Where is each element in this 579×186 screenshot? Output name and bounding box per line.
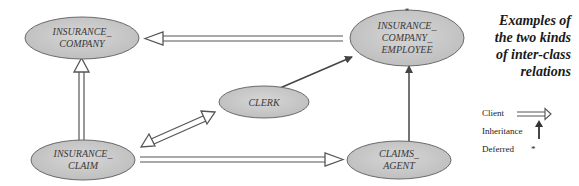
class-insurance-company-employee[interactable]: * INSURANCE_ COMPANY_ EMPLOYEE (350, 6, 464, 66)
class-label: CLAIMS_ (379, 148, 420, 159)
legend-deferred-symbol: * (531, 144, 536, 154)
caption-line: relations (461, 63, 571, 80)
class-label: CLAIM (68, 160, 99, 171)
class-label: AGENT (382, 160, 416, 171)
class-label: COMPANY_ (382, 32, 433, 43)
legend-client-symbol (517, 109, 551, 120)
legend-inheritance-label: Inheritance (482, 126, 522, 136)
legend-inheritance-symbol (535, 120, 543, 139)
class-label: EMPLOYEE (380, 44, 432, 55)
diagram-caption: Examples of the two kinds of inter-class… (461, 12, 571, 80)
legend-deferred-label: Deferred (482, 144, 514, 154)
deferred-marker: * (405, 6, 410, 16)
class-label: COMPANY (59, 38, 106, 49)
client-arrow-claim-clerk (141, 111, 215, 147)
class-claims-agent[interactable]: CLAIMS_ AGENT (347, 141, 451, 179)
inheritance-arrow-clerk-to-employee (280, 57, 352, 88)
caption-line: of inter-class (461, 46, 571, 63)
client-arrow-employee-to-company (145, 32, 343, 45)
class-insurance-claim[interactable]: INSURANCE_ CLAIM (31, 140, 135, 180)
caption-line: the two kinds (461, 29, 571, 46)
class-label: INSURANCE_ (53, 148, 114, 159)
class-insurance-company[interactable]: INSURANCE_ COMPANY (25, 17, 139, 59)
legend-client-label: Client (482, 108, 504, 118)
class-label: INSURANCE_ (377, 20, 438, 31)
class-label: CLERK (248, 97, 280, 108)
class-label: INSURANCE_ (52, 26, 113, 37)
client-arrow-claim-to-agent (140, 153, 343, 166)
caption-line: Examples of (461, 12, 571, 29)
class-clerk[interactable]: CLERK (219, 86, 309, 118)
